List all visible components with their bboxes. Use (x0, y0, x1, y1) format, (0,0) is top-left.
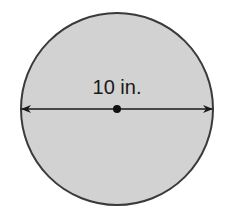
center-point (113, 105, 121, 113)
diameter-label: 10 in. (93, 76, 142, 98)
circle-diagram: 10 in. (0, 0, 233, 206)
